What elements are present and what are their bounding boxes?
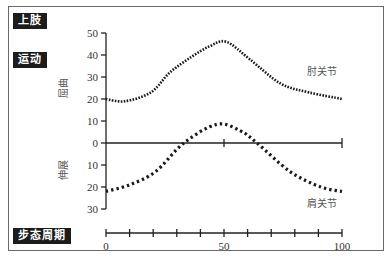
y-tick-label: 30: [87, 71, 99, 83]
shoulder-label: 肩关节: [307, 197, 337, 209]
flexion-label: 屈曲: [58, 78, 69, 98]
y-tick-label: 20: [87, 181, 99, 193]
y-tick-label: 50: [87, 27, 99, 39]
y-tick-label: 10: [87, 115, 99, 127]
extension-label: 伸展: [58, 160, 69, 180]
y-tick-label: 0: [93, 137, 99, 149]
y-tick-label: 10: [87, 159, 99, 171]
joint-angle-chart: 50403020100102030050100屈曲伸展肘关节肩关节: [0, 0, 390, 259]
y-tick-label: 40: [87, 49, 99, 61]
elbow-label: 肘关节: [307, 65, 337, 77]
shoulder-curve: [106, 124, 342, 192]
x-tick-label: 50: [219, 240, 231, 252]
y-tick-label: 30: [87, 203, 99, 215]
y-tick-label: 20: [87, 93, 99, 105]
x-tick-label: 0: [103, 240, 109, 252]
x-tick-label: 100: [334, 240, 351, 252]
